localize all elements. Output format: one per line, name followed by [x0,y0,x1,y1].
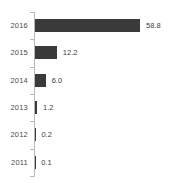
bar-chart: 2016 58.8 2015 12.2 2014 6.0 2013 [0,0,172,183]
value-label-2012: 0.2 [41,131,51,139]
bar-zone-2011: 0.1 [35,156,52,169]
bar-2015[interactable] [35,46,57,59]
category-label-2015: 2015 [0,49,28,57]
bar-row: 2015 12.2 [0,39,172,66]
category-label-2012: 2012 [0,131,28,139]
axis-tick [30,176,35,177]
bar-row: 2014 6.0 [0,67,172,94]
bar-zone-2013: 1.2 [35,101,54,114]
value-label-2016: 58.8 [146,22,161,30]
category-label-2014: 2014 [0,77,28,85]
bar-zone-2015: 12.2 [35,46,77,59]
value-label-2013: 1.2 [43,104,53,112]
bar-2013[interactable] [35,101,37,114]
value-label-2011: 0.1 [41,159,51,167]
bar-zone-2014: 6.0 [35,74,62,87]
bar-row: 2016 58.8 [0,12,172,39]
bar-row: 2011 0.1 [0,149,172,176]
category-label-2011: 2011 [0,159,28,167]
category-label-2016: 2016 [0,22,28,30]
bar-row: 2013 1.2 [0,94,172,121]
bar-2016[interactable] [35,19,140,32]
bar-rows: 2016 58.8 2015 12.2 2014 6.0 2013 [0,12,172,176]
value-label-2015: 12.2 [63,49,78,57]
bar-zone-2012: 0.2 [35,128,52,141]
bar-zone-2016: 58.8 [35,19,161,32]
category-label-2013: 2013 [0,104,28,112]
bar-2014[interactable] [35,74,46,87]
value-label-2014: 6.0 [52,77,62,85]
bar-row: 2012 0.2 [0,121,172,148]
